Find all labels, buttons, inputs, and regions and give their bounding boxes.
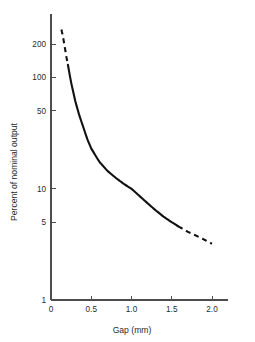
curve-segment-dashed	[61, 30, 67, 65]
y-axis-ticks: 151050100200	[32, 40, 55, 305]
chart-plot-area: 151050100200 00.51.01.52.0 Gap (mm) Perc…	[0, 0, 255, 342]
y-tick-label: 5	[41, 218, 46, 227]
data-curve	[61, 30, 212, 244]
y-tick-label: 100	[32, 73, 46, 82]
curve-segment-solid	[68, 65, 178, 226]
x-tick-label: 1.0	[126, 305, 138, 314]
y-tick-label: 50	[37, 107, 47, 116]
y-tick-label: 10	[37, 185, 47, 194]
x-tick-label: 2.0	[206, 305, 218, 314]
x-axis-ticks: 00.51.01.52.0	[49, 296, 218, 315]
x-tick-label: 0	[49, 305, 54, 314]
y-tick-label: 200	[32, 40, 46, 49]
y-tick-label: 1	[41, 296, 46, 305]
x-tick-label: 0.5	[86, 305, 98, 314]
y-axis-title: Percent of nominal output	[9, 122, 19, 221]
axis-lines	[51, 14, 228, 300]
x-axis-title: Gap (mm)	[113, 325, 152, 335]
x-tick-label: 1.5	[166, 305, 178, 314]
chart-figure: 151050100200 00.51.01.52.0 Gap (mm) Perc…	[0, 0, 255, 342]
curve-segment-dashed	[178, 226, 212, 244]
